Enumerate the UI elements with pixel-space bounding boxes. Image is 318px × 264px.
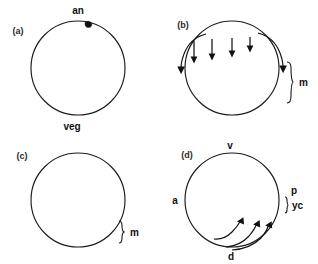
panel-a-cell-outline (31, 21, 125, 115)
panel-c-cell-outline (31, 153, 125, 247)
panel-c: (c) m (17, 151, 140, 252)
posterior-label: p (291, 185, 297, 196)
panel-c-mesoplasm-bracket: m (119, 221, 139, 243)
vegetal-pole-label: veg (63, 121, 80, 132)
figure-root: (a) an veg (b) (0, 0, 318, 264)
anterior-label: a (172, 195, 178, 206)
panel-d-yellow-crescent-bracket: yc (285, 197, 304, 213)
panel-c-label: (c) (17, 151, 28, 161)
ventral-label: v (227, 140, 233, 151)
dorsal-label: d (228, 251, 234, 262)
diagram-canvas: (a) an veg (b) (0, 0, 318, 264)
panel-b-bracket-label: m (299, 77, 308, 88)
panel-d: (d) v a d p (172, 140, 303, 262)
panel-b: (b) (177, 20, 308, 120)
animal-pole-label: an (72, 5, 84, 16)
panel-c-bracket-label: m (130, 227, 139, 238)
panel-b-label: (b) (177, 20, 189, 30)
panel-a: (a) an veg (13, 5, 131, 132)
panel-a-label: (a) (13, 26, 24, 36)
panel-d-label: (d) (181, 150, 193, 160)
polar-body-icon (85, 21, 92, 27)
panel-b-mesoplasm-bracket: m (287, 62, 308, 103)
panel-d-bracket-label: yc (292, 200, 304, 211)
